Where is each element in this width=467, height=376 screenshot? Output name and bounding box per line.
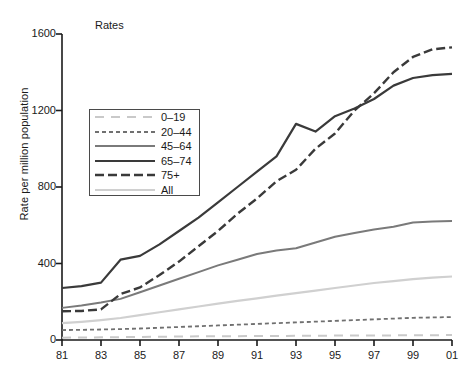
y-tick-label: 1200 [16,104,56,116]
legend-swatch-icon [94,156,156,166]
x-tick-label: 89 [203,349,233,361]
x-tick-label: 93 [281,349,311,361]
x-tick-label: 85 [125,349,155,361]
legend-label: 65–74 [161,155,192,167]
x-tick-label: 91 [242,349,272,361]
legend-item[interactable]: 45–64 [90,139,199,154]
legend-label: All [161,184,173,196]
x-tick-label: 87 [164,349,194,361]
chart-legend: 0–1920–4445–6465–7475+All [89,109,200,196]
x-tick-label: 97 [359,349,389,361]
x-tick-label: 81 [47,349,77,361]
x-tick-label: 83 [86,349,116,361]
plot-area [0,0,467,376]
y-tick-label: 1600 [16,27,56,39]
y-tick-label: 400 [16,257,56,269]
y-tick-label: 0 [16,333,56,345]
legend-item[interactable]: 75+ [90,168,199,183]
legend-label: 0–19 [161,111,185,123]
legend-label: 45–64 [161,140,192,152]
series-line [62,221,452,308]
series-line [62,335,452,338]
legend-item[interactable]: 65–74 [90,154,199,169]
x-tick-label: 01 [437,349,467,361]
legend-item[interactable]: All [90,183,199,198]
legend-item[interactable]: 20–44 [90,125,199,140]
y-tick-label: 800 [16,180,56,192]
rates-line-chart: Rate per million population Rates 040080… [0,0,467,376]
legend-swatch-icon [94,141,156,151]
legend-label: 20–44 [161,126,192,138]
legend-swatch-icon [94,170,156,180]
legend-item[interactable]: 0–19 [90,110,199,125]
legend-label: 75+ [161,169,180,181]
legend-swatch-icon [94,112,156,122]
legend-swatch-icon [94,185,156,195]
legend-swatch-icon [94,127,156,137]
x-tick-label: 95 [320,349,350,361]
x-tick-label: 99 [398,349,428,361]
